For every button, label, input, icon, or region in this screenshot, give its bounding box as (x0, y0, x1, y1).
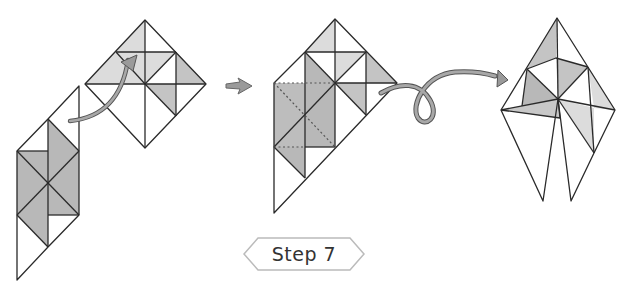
lower-strip (17, 86, 79, 280)
step-label: Step 7 (246, 238, 362, 270)
figure-middle (274, 19, 397, 213)
next-arrow-icon (226, 78, 252, 94)
turn-over-arrow-icon (381, 70, 508, 122)
upper-diamond (85, 20, 206, 148)
figure-before (17, 20, 206, 280)
figure-result (501, 18, 615, 201)
